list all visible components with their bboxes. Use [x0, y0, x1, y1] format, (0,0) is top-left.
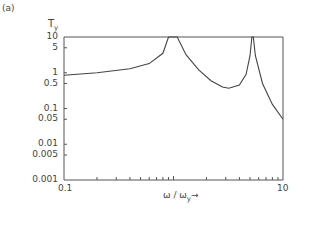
y-tick-label: 0.001 — [32, 175, 58, 184]
y-tick-label: 1 — [52, 68, 58, 77]
y-tick-label: 0.005 — [32, 150, 58, 159]
axis-ticks — [64, 48, 278, 180]
y-tick-label: 0.05 — [38, 114, 58, 123]
y-tick-label: 0.1 — [44, 104, 58, 113]
x-tick-label: 10 — [277, 184, 288, 193]
y-tick-label: 0.01 — [38, 139, 58, 148]
x-tick-label: 0.1 — [58, 184, 72, 193]
transmissibility-curve — [64, 37, 283, 119]
y-tick-label: 10 — [47, 32, 58, 41]
y-tick-label: 5 — [52, 43, 58, 52]
y-tick-label: 0.5 — [44, 79, 58, 88]
plot-frame — [64, 37, 283, 180]
